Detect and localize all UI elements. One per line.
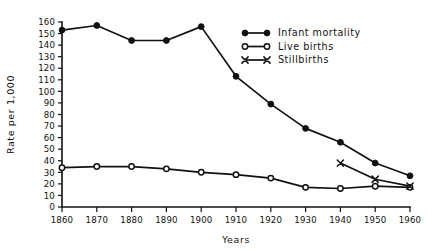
data-point-infant-mortality [338, 139, 344, 145]
data-point-live-births [338, 186, 343, 191]
x-axis-tick-label: 1930 [294, 215, 316, 225]
y-axis-tick-label: 50 [44, 144, 55, 154]
legend-marker-end-0 [264, 30, 270, 36]
y-axis-tick-label: 10 [44, 191, 55, 201]
x-axis-title: Years [221, 234, 250, 245]
y-axis-tick-label: 80 [44, 110, 55, 120]
series-line-infant-mortality [62, 25, 410, 175]
data-point-live-births [268, 175, 273, 180]
y-axis-tick-label: 140 [38, 40, 55, 50]
data-point-infant-mortality [303, 125, 309, 131]
y-axis-tick-label: 120 [38, 63, 55, 73]
x-axis-tick-label: 1940 [329, 215, 351, 225]
x-axis-tick-label: 1870 [86, 215, 108, 225]
y-axis-tick-label: 70 [44, 121, 55, 131]
x-axis-tick-label: 1860 [51, 215, 73, 225]
y-axis-tick-label: 0 [49, 202, 55, 212]
x-axis-tick-label: 1890 [155, 215, 177, 225]
data-point-live-births [199, 170, 204, 175]
legend-label-0: Infant mortality [278, 27, 361, 38]
y-axis-tick-label: 100 [38, 87, 55, 97]
data-point-infant-mortality [59, 27, 65, 33]
legend-label-2: Stillbirths [278, 54, 329, 65]
x-axis-tick-label: 1960 [399, 215, 421, 225]
y-axis-title: Rate per 1,000 [5, 75, 16, 154]
chart-axes [62, 22, 410, 207]
data-point-infant-mortality [407, 173, 413, 179]
data-point-infant-mortality [164, 38, 170, 44]
data-point-infant-mortality [129, 38, 135, 44]
x-axis-tick-label: 1900 [190, 215, 212, 225]
x-axis-tick-label: 1920 [260, 215, 282, 225]
legend-marker-1 [242, 44, 247, 49]
y-axis-tick-label: 110 [38, 75, 55, 85]
y-axis-tick-label: 30 [44, 168, 55, 178]
series-line-stillbirths [340, 163, 410, 186]
legend-marker-end-1 [264, 44, 269, 49]
y-axis-tick-label: 60 [44, 133, 55, 143]
y-axis-tick-label: 90 [44, 98, 55, 108]
data-point-live-births [59, 165, 64, 170]
data-point-live-births [94, 164, 99, 169]
chart-container: 0102030405060708090100110120130140150160… [0, 0, 428, 250]
data-point-stillbirths [337, 160, 343, 166]
data-point-live-births [303, 185, 308, 190]
data-point-live-births [233, 172, 238, 177]
y-axis-tick-label: 160 [38, 17, 55, 27]
legend-label-1: Live births [278, 41, 334, 52]
y-axis-tick-label: 150 [38, 29, 55, 39]
x-axis-tick-label: 1880 [120, 215, 142, 225]
data-point-live-births [129, 164, 134, 169]
data-point-live-births [164, 166, 169, 171]
data-point-infant-mortality [198, 24, 204, 30]
y-axis-tick-label: 130 [38, 52, 55, 62]
y-axis-tick-label: 40 [44, 156, 55, 166]
y-axis-tick-label: 20 [44, 179, 55, 189]
data-point-infant-mortality [233, 73, 239, 79]
x-axis-tick-label: 1950 [364, 215, 386, 225]
legend-marker-0 [242, 30, 248, 36]
data-point-infant-mortality [94, 23, 100, 29]
line-chart: 0102030405060708090100110120130140150160… [0, 0, 428, 250]
data-point-infant-mortality [372, 160, 378, 166]
data-point-infant-mortality [268, 101, 274, 107]
x-axis-tick-label: 1910 [225, 215, 247, 225]
data-point-live-births [373, 183, 378, 188]
